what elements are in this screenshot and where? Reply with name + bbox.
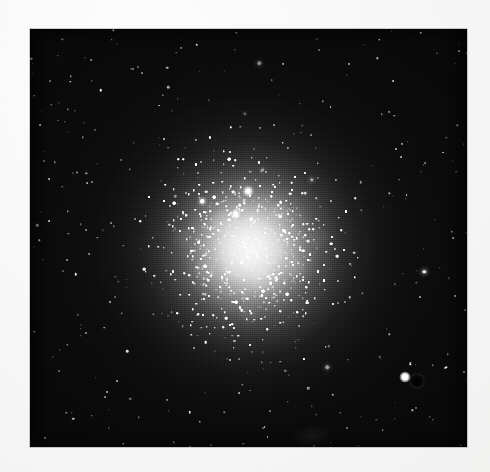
figure-page [0, 0, 490, 472]
plate-vignette-layer [30, 29, 467, 447]
globular-cluster-photograph [30, 29, 467, 447]
